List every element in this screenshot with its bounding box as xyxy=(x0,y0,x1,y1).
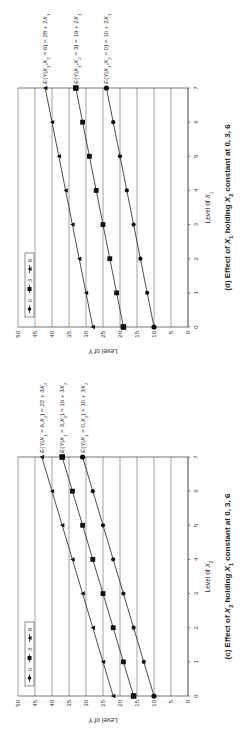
svg-text:25: 25 xyxy=(100,330,106,337)
svg-text:5: 5 xyxy=(193,523,199,527)
series-3 xyxy=(59,454,136,699)
circle-marker xyxy=(132,222,136,226)
svg-text:50: 50 xyxy=(15,330,21,337)
legend-entry-label: 6 xyxy=(27,259,33,262)
circle-icon xyxy=(28,307,32,311)
svg-text:3: 3 xyxy=(193,222,199,226)
series-group xyxy=(40,454,157,699)
square-marker xyxy=(121,324,127,330)
svg-text:7: 7 xyxy=(193,86,199,90)
x-axis-label: Level of X2 xyxy=(204,560,214,592)
equation-label-3: E(Y|X1,X2 = 3) = 19 + 2X1 xyxy=(72,13,82,84)
square-marker xyxy=(70,489,75,494)
svg-text:45: 45 xyxy=(32,330,38,337)
svg-text:6: 6 xyxy=(193,489,199,493)
square-marker xyxy=(87,154,92,159)
chart-d-content: 0510152025303540455001234567Level of YLe… xyxy=(15,13,234,355)
square-marker xyxy=(107,256,112,261)
x-tick-labels: 01234567 xyxy=(188,86,199,329)
svg-text:35: 35 xyxy=(66,699,72,706)
square-marker xyxy=(73,85,79,91)
legend-entry-label: 0 xyxy=(27,668,33,671)
x-tick-labels: 01234567 xyxy=(188,455,199,698)
chart-panel-d: 0510152025303540455001234567Level of YLe… xyxy=(0,0,244,369)
svg-text:4: 4 xyxy=(193,188,199,192)
svg-text:10: 10 xyxy=(151,699,157,706)
square-marker xyxy=(111,625,116,630)
square-marker xyxy=(94,188,99,193)
svg-text:30: 30 xyxy=(83,330,89,337)
svg-text:0: 0 xyxy=(185,330,191,334)
svg-text:40: 40 xyxy=(49,699,55,706)
equation-label-0: E(Y|X1,X2 = 0) = 10 + 2X1 xyxy=(102,13,112,84)
svg-text:6: 6 xyxy=(193,120,199,124)
chart-panel-c: 0510152025303540455001234567Level of YLe… xyxy=(0,369,244,738)
circle-marker xyxy=(121,591,125,595)
chart-caption: (c) Effect of X2 holding X1 constant at … xyxy=(223,493,234,659)
square-marker xyxy=(90,557,95,562)
square-marker xyxy=(101,222,106,227)
svg-text:0: 0 xyxy=(193,694,199,698)
legend-entry-label: 0 xyxy=(27,299,33,302)
svg-text:7: 7 xyxy=(193,455,199,459)
legend-entry-label: 6 xyxy=(27,628,33,631)
circle-icon xyxy=(28,676,32,680)
svg-text:2: 2 xyxy=(193,256,199,260)
square-marker xyxy=(80,120,85,125)
svg-text:50: 50 xyxy=(15,699,21,706)
series-0 xyxy=(104,85,157,329)
svg-text:2: 2 xyxy=(193,625,199,629)
series-6 xyxy=(40,455,116,698)
svg-text:5: 5 xyxy=(193,154,199,158)
circle-marker xyxy=(91,489,95,493)
x-axis-label: Level of X1 xyxy=(204,191,214,223)
chart-c-svg: 0510152025303540455001234567Level of YLe… xyxy=(0,369,244,738)
equation-label-6: E(Y|X1 = 6,X2) = 22 + 3X2 xyxy=(38,382,48,453)
y-axis-label: Level of Y xyxy=(88,717,118,724)
y-tick-labels: 05101520253035404550 xyxy=(15,330,191,337)
chart-caption: (d) Effect of X1 holding X2 constant at … xyxy=(223,124,234,291)
triangle-marker xyxy=(40,455,44,459)
circle-marker xyxy=(125,188,129,192)
square-marker xyxy=(131,693,137,699)
svg-text:35: 35 xyxy=(66,330,72,337)
svg-text:1: 1 xyxy=(193,291,199,295)
triangle-marker xyxy=(111,694,115,698)
triangle-marker xyxy=(70,557,74,561)
circle-marker xyxy=(142,660,146,664)
chart-c-content: 0510152025303540455001234567Level of YLe… xyxy=(15,382,234,724)
equation-label-6: E(Y|X1,X2 = 6) = 28 + 2X1 xyxy=(41,13,51,84)
legend: 036 xyxy=(25,622,34,686)
series-0 xyxy=(80,454,157,698)
svg-text:20: 20 xyxy=(117,699,123,706)
circle-marker xyxy=(138,257,142,261)
series-group xyxy=(43,85,157,330)
square-marker xyxy=(80,523,85,528)
svg-text:20: 20 xyxy=(117,330,123,337)
circle-marker xyxy=(104,85,109,90)
circle-marker xyxy=(111,557,115,561)
square-marker xyxy=(59,454,65,460)
svg-text:10: 10 xyxy=(151,330,157,337)
legend-entry-label: 3 xyxy=(27,279,33,282)
circle-marker xyxy=(80,454,85,459)
equation-label-3: E(Y|X1 = 3,X2) = 16 + 3X2 xyxy=(58,382,68,453)
equation-annotations: E(Y|X1,X2 = 0) = 10 + 2X1E(Y|X1,X2 = 3) … xyxy=(41,13,112,84)
y-tick-labels: 05101520253035404550 xyxy=(15,699,191,706)
circle-marker xyxy=(151,324,156,329)
svg-text:40: 40 xyxy=(49,330,55,337)
circle-marker xyxy=(132,626,136,630)
circle-marker xyxy=(151,693,156,698)
square-icon xyxy=(28,656,32,660)
legend-entry-label: 3 xyxy=(27,648,33,651)
circle-marker xyxy=(145,291,149,295)
circle-marker xyxy=(101,523,105,527)
equation-label-0: E(Y|X1 = 0,X2) = 10 + 3X2 xyxy=(79,382,89,453)
svg-text:3: 3 xyxy=(193,591,199,595)
svg-text:0: 0 xyxy=(185,699,191,703)
square-marker xyxy=(101,591,106,596)
svg-text:1: 1 xyxy=(193,660,199,664)
svg-text:5: 5 xyxy=(168,330,174,334)
svg-text:0: 0 xyxy=(193,325,199,329)
circle-marker xyxy=(118,154,122,158)
